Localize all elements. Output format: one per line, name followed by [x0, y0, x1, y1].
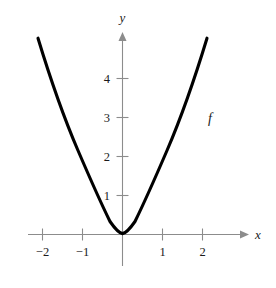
y-axis-arrow-icon — [119, 32, 127, 41]
y-tick-label-three: 3 — [104, 111, 110, 125]
y-axis-label: y — [118, 10, 126, 25]
x-axis-arrow-icon — [240, 231, 249, 239]
x-tick-label-minus-one: −1 — [76, 245, 89, 259]
x-tick-label-minus-two: −2 — [36, 245, 49, 259]
y-tick-label-four: 4 — [104, 72, 111, 86]
x-axis-label: x — [254, 227, 261, 242]
plot-canvas: −2 −1 1 2 1 2 3 4 x y f — [0, 0, 276, 288]
parabola-figure: −2 −1 1 2 1 2 3 4 x y f — [0, 0, 276, 288]
y-tick-label-two: 2 — [104, 150, 110, 164]
y-tick-label-one: 1 — [104, 189, 110, 203]
x-tick-label-one: 1 — [159, 245, 165, 259]
curve-label-f: f — [208, 111, 214, 126]
x-tick-label-two: 2 — [199, 245, 205, 259]
